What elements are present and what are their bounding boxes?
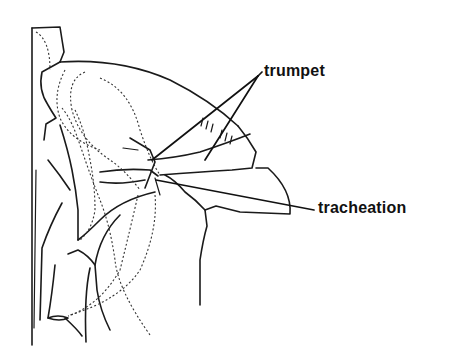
left-small-curve	[48, 160, 70, 190]
anatomical-diagram: trumpet tracheation	[0, 0, 452, 357]
anterior-outline	[41, 62, 60, 140]
lower-lobe-outline	[165, 168, 290, 214]
leg-segment-3	[48, 265, 55, 318]
tracheation-leader	[156, 180, 314, 210]
trumpet-leader-tip	[258, 72, 262, 76]
dotted-outline-5	[70, 195, 155, 315]
junction-branch-lower	[100, 180, 145, 183]
leg-segment-1	[68, 250, 110, 330]
dorsal-arc	[60, 61, 238, 126]
junction-ticks	[123, 148, 160, 195]
trumpet-leader-1	[152, 76, 258, 160]
trumpet-hatching	[201, 118, 232, 144]
thorax-line-drawing	[0, 0, 452, 357]
label-trumpet: trumpet	[264, 63, 325, 79]
trumpet-leader-2	[205, 76, 258, 160]
top-tab-dotted	[36, 32, 50, 70]
label-tracheation: tracheation	[318, 200, 406, 216]
mid-curve	[78, 192, 155, 240]
left-center-curve	[60, 125, 78, 240]
trumpet-lobe-upper	[148, 134, 250, 160]
leg-lower-lines	[65, 268, 90, 342]
ventral-line-right	[200, 210, 207, 305]
left-inner-line	[34, 170, 36, 328]
trumpet-lobe-outline	[160, 126, 256, 175]
dotted-outline-2	[71, 72, 140, 190]
